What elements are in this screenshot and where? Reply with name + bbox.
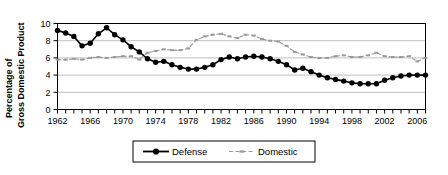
data-point-marker [112, 32, 117, 37]
data-point-marker [129, 55, 133, 57]
data-point-marker [325, 57, 329, 59]
data-point-marker [342, 54, 346, 56]
data-point-marker [170, 49, 174, 51]
data-point-marker [268, 40, 272, 42]
data-point-marker [56, 59, 60, 61]
data-point-marker [423, 72, 428, 77]
data-point-marker [398, 73, 403, 78]
y-tick-label: 4 [45, 70, 50, 80]
data-point-marker [382, 78, 387, 83]
x-tick-label: 1978 [178, 116, 198, 126]
data-point-marker [105, 57, 109, 59]
x-tick-label: 1970 [113, 116, 133, 126]
x-tick-label: 1974 [146, 116, 166, 126]
data-point-marker [383, 55, 387, 57]
data-point-marker [161, 59, 166, 64]
data-point-marker [399, 56, 403, 58]
data-point-marker [424, 57, 428, 59]
x-tick-label: 1982 [211, 116, 231, 126]
data-point-marker [236, 37, 240, 39]
data-point-marker [357, 81, 362, 86]
data-point-marker [55, 28, 60, 33]
data-point-marker [366, 81, 371, 86]
data-point-marker [195, 39, 199, 41]
data-point-marker [309, 56, 313, 58]
data-point-marker [137, 49, 142, 54]
data-point-marker [227, 35, 231, 37]
data-point-marker [146, 52, 150, 54]
data-point-marker [210, 62, 215, 67]
data-point-marker [88, 57, 92, 59]
data-point-marker [390, 75, 395, 80]
data-point-marker [186, 66, 191, 71]
data-point-marker [177, 65, 182, 70]
data-point-marker [211, 34, 215, 36]
data-point-marker [301, 53, 305, 55]
x-tick-label: 1990 [276, 116, 296, 126]
data-point-marker [169, 62, 174, 67]
y-tick-label: 0 [45, 105, 50, 115]
data-point-marker [79, 43, 84, 48]
data-point-marker [366, 54, 370, 56]
x-tick-label: 1962 [47, 116, 67, 126]
data-point-marker [267, 56, 272, 61]
data-point-marker [227, 54, 232, 59]
data-point-marker [251, 53, 256, 58]
data-point-marker [325, 75, 330, 80]
data-point-marker [300, 66, 305, 71]
data-point-marker [63, 30, 68, 35]
legend-label: Defense [172, 146, 207, 157]
data-point-marker [194, 66, 199, 71]
data-point-marker [219, 33, 223, 35]
data-point-marker [153, 60, 158, 65]
data-point-marker [178, 49, 182, 51]
data-point-marker [154, 50, 158, 52]
y-axis-title-line1: Percentage of [4, 57, 14, 118]
data-point-marker [276, 59, 281, 64]
data-point-marker [137, 59, 141, 61]
data-point-marker [88, 41, 93, 46]
x-tick-label: 1986 [244, 116, 264, 126]
data-point-marker [284, 62, 289, 67]
data-point-marker [252, 35, 256, 37]
x-tick-label: 1966 [80, 116, 100, 126]
y-axis-title-line2: Gross Domestic Product [16, 22, 26, 128]
x-tick-label: 2006 [407, 116, 427, 126]
data-point-marker [162, 48, 166, 50]
data-point-marker [80, 59, 84, 61]
data-point-marker [334, 55, 338, 57]
y-tick-label: 6 [45, 53, 50, 63]
data-point-marker [285, 45, 289, 47]
data-point-marker [358, 56, 362, 58]
data-point-marker [203, 35, 207, 37]
x-tick-label: 2002 [375, 116, 395, 126]
data-point-marker [96, 56, 100, 58]
data-point-marker [406, 72, 411, 77]
data-point-marker [72, 58, 76, 60]
data-point-marker [244, 34, 248, 36]
x-tick-label: 1994 [309, 116, 329, 126]
legend-marker-swatch [240, 150, 245, 152]
data-point-marker [415, 60, 419, 62]
data-point-marker [292, 67, 297, 72]
y-tick-label: 8 [45, 36, 50, 46]
data-point-marker [293, 51, 297, 53]
data-point-marker [96, 31, 101, 36]
data-point-marker [375, 52, 379, 54]
data-point-marker [415, 72, 420, 77]
chart-legend: DefenseDomestic [133, 141, 315, 162]
data-point-marker [260, 38, 264, 40]
legend-marker-swatch [153, 148, 159, 154]
data-point-marker [235, 56, 240, 61]
data-point-marker [317, 57, 321, 59]
data-point-marker [128, 44, 133, 49]
data-point-marker [104, 25, 109, 30]
y-tick-label: 2 [45, 88, 50, 98]
data-point-marker [243, 54, 248, 59]
data-point-marker [218, 57, 223, 62]
data-point-marker [391, 56, 395, 58]
legend-label: Domestic [258, 146, 298, 157]
y-tick-label: 10 [40, 19, 50, 29]
chart-figure: Percentage of Gross Domestic Product 024… [0, 0, 448, 175]
data-point-marker [120, 37, 125, 42]
